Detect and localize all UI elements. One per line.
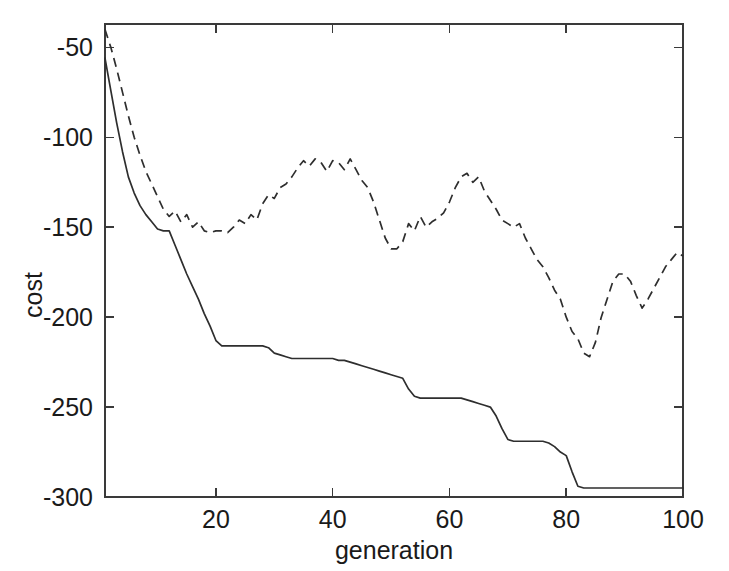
x-tick-label: 40: [319, 505, 347, 533]
y-tick-label: -200: [43, 303, 93, 331]
axis-frame: [105, 24, 683, 497]
y-tick-label: -250: [43, 393, 93, 421]
line-chart-canvas: -50-100-150-200-250-300 20406080100 cost…: [0, 0, 729, 571]
plot-border: [105, 24, 683, 497]
y-axis-ticks: [105, 47, 683, 497]
x-tick-label: 100: [662, 505, 704, 533]
y-tick-label: -100: [43, 123, 93, 151]
y-tick-label: -50: [57, 33, 93, 61]
y-axis-label: cost: [19, 272, 47, 318]
x-tick-label: 20: [202, 505, 230, 533]
x-axis-tick-labels: 20406080100: [202, 505, 704, 533]
x-axis-ticks: [216, 24, 683, 497]
chart-figure: -50-100-150-200-250-300 20406080100 cost…: [0, 0, 729, 571]
series-average-cost-line: [105, 29, 683, 356]
series-best-cost-line: [105, 58, 683, 488]
x-tick-label: 60: [436, 505, 464, 533]
x-tick-label: 80: [552, 505, 580, 533]
y-tick-label: -150: [43, 213, 93, 241]
data-series-group: [105, 29, 683, 488]
y-axis-tick-labels: -50-100-150-200-250-300: [43, 33, 93, 511]
y-tick-label: -300: [43, 483, 93, 511]
x-axis-label: generation: [335, 536, 453, 564]
